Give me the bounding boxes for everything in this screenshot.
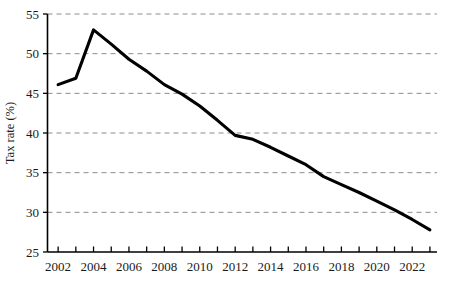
x-tick-label-2014: 2014 (258, 259, 285, 274)
y-tick-label-25: 25 (26, 245, 39, 260)
x-tick-label-2010: 2010 (187, 259, 213, 274)
y-axis-title: Tax rate (%) (3, 102, 17, 164)
chart-container: 25303540455055 2002200420062008201020122… (0, 0, 454, 297)
y-tick-label-45: 45 (26, 86, 39, 101)
x-tick-label-2016: 2016 (293, 259, 320, 274)
y-tick-label-30: 30 (26, 205, 39, 220)
x-tick-label-2022: 2022 (399, 259, 425, 274)
x-tick-label-2004: 2004 (81, 259, 108, 274)
x-tick-label-2018: 2018 (328, 259, 354, 274)
y-tick-label-50: 50 (26, 46, 39, 61)
line-chart: 25303540455055 2002200420062008201020122… (0, 0, 454, 297)
y-tick-label-35: 35 (26, 165, 39, 180)
x-tick-label-2006: 2006 (116, 259, 143, 274)
y-tick-label-40: 40 (26, 126, 39, 141)
x-axis-tick-labels: 2002200420062008201020122014201620182020… (45, 259, 425, 274)
x-tick-label-2020: 2020 (364, 259, 390, 274)
x-tick-label-2012: 2012 (222, 259, 248, 274)
x-tick-label-2002: 2002 (45, 259, 71, 274)
x-tick-label-2008: 2008 (151, 259, 177, 274)
y-tick-label-55: 55 (26, 7, 39, 22)
